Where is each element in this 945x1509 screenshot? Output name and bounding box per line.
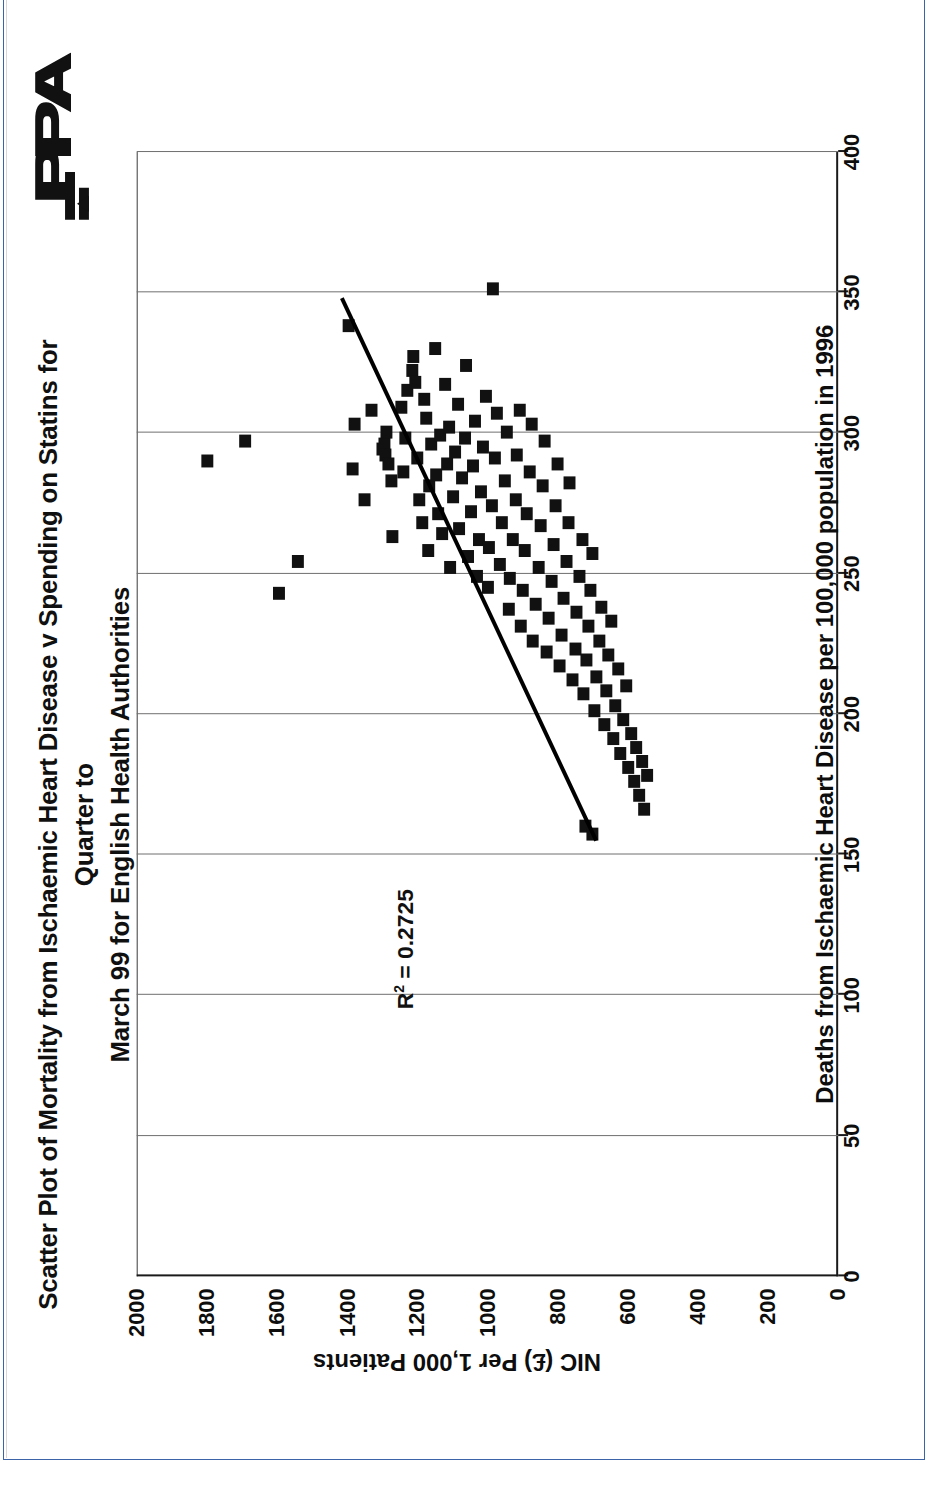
y-axis-tick-label: 600 xyxy=(614,1288,640,1325)
y-axis-tick-label: 800 xyxy=(544,1288,570,1325)
x-axis-tick-label: 250 xyxy=(839,555,865,592)
y-axis-tick-label: 2000 xyxy=(123,1288,149,1337)
y-axis-tick-label: 1000 xyxy=(474,1288,500,1337)
y-axis-tick-label: 200 xyxy=(755,1288,781,1325)
x-axis-tick-label: 0 xyxy=(839,1270,865,1282)
r-squared-annotation: R2 = 0.2725 xyxy=(391,888,419,1008)
y-axis-tick-label: 1600 xyxy=(264,1288,290,1337)
y-axis-title: NIC (£) Per 1,000 Patients xyxy=(198,1348,715,1376)
scanned-page: Scatter Plot of Mortality from Ischaemic… xyxy=(0,0,945,1509)
x-axis-tick-label: 50 xyxy=(839,1123,865,1147)
x-axis-tick-label: 350 xyxy=(839,274,865,311)
plot-wrapper: 050100150200250300350400 020040060080010… xyxy=(25,38,921,1471)
x-axis-tick-label: 300 xyxy=(839,414,865,451)
x-axis-title: Deaths from Ischaemic Heart Disease per … xyxy=(811,152,839,1276)
plot-area: 050100150200250300350400 020040060080010… xyxy=(136,152,837,1276)
y-axis-tick-label: 1800 xyxy=(193,1288,219,1337)
x-axis-tick-label: 150 xyxy=(839,836,865,873)
r-squared-text: R xyxy=(391,992,417,1009)
y-axis-tick-label: 0 xyxy=(825,1288,851,1300)
x-axis-tick-label: 400 xyxy=(839,133,865,170)
y-axis-tick-label: 400 xyxy=(684,1288,710,1325)
y-axis-tick-label: 1400 xyxy=(334,1288,360,1337)
y-axis-tick-label: 1200 xyxy=(404,1288,430,1337)
x-axis-tick-label: 200 xyxy=(839,695,865,732)
x-axis-tick-label: 100 xyxy=(839,977,865,1014)
trendline xyxy=(136,152,837,1276)
r-squared-value: = 0.2725 xyxy=(391,888,417,984)
chart-stage: Scatter Plot of Mortality from Ischaemic… xyxy=(25,38,921,1471)
